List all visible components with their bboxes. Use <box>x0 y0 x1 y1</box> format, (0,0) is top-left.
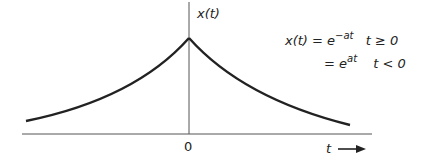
equation-line-1: x(t) = e−at t ≥ 0 <box>285 30 398 48</box>
equation-2-exponent: at <box>347 53 357 64</box>
equation-1-lhs: x(t) = e <box>285 33 335 48</box>
y-axis-label: x(t) <box>197 6 220 21</box>
curve-left-growing-exponential <box>26 38 189 121</box>
origin-label: 0 <box>184 139 192 154</box>
equation-1-condition: t ≥ 0 <box>366 33 399 48</box>
equation-line-2: = eat t < 0 <box>324 53 406 71</box>
equation-2-condition: t < 0 <box>373 56 406 71</box>
t-arrow-icon <box>356 145 366 153</box>
diagram-canvas <box>0 0 448 166</box>
equation-1-exponent: −at <box>335 30 353 41</box>
t-axis-label: t <box>326 141 331 156</box>
equation-2-lhs: = e <box>324 56 347 71</box>
curve-right-decaying-exponential <box>189 38 350 125</box>
